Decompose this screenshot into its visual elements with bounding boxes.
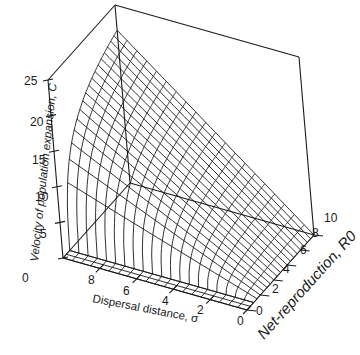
z-tick-25: 25 [24, 74, 38, 88]
y-tick-0: 0 [256, 304, 263, 318]
y-tick-6: 6 [300, 243, 307, 257]
x-tick-8: 8 [88, 273, 95, 287]
y-tick-10: 10 [324, 211, 338, 225]
y-tick-8: 8 [312, 226, 319, 240]
y-tick-4: 4 [283, 262, 290, 276]
axes-box [48, 5, 314, 310]
x-tick-0: 0 [237, 314, 244, 328]
x-tick-6: 6 [123, 284, 130, 298]
x-axis-label: Dispersal distance, σ [92, 292, 200, 324]
z-tick-0: 0 [22, 271, 29, 285]
surface-chart: 0 5 10 15 20 25 8 6 4 2 0 0 2 4 6 8 10 V… [0, 0, 360, 355]
y-tick-2: 2 [272, 282, 279, 296]
